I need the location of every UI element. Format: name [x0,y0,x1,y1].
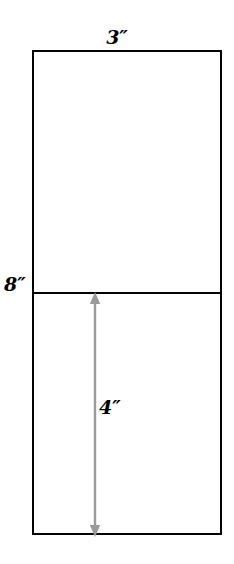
lower-segment-dimension-label: 4″ [99,398,121,417]
total-height-dimension-label: 8″ [4,275,26,294]
diagram-canvas: 3″ 8″ 4″ [0,0,234,564]
width-dimension-label: 3″ [0,28,234,47]
upper-half-region [32,50,222,293]
horizontal-divider-line [32,292,222,294]
lower-half-region [32,293,222,535]
